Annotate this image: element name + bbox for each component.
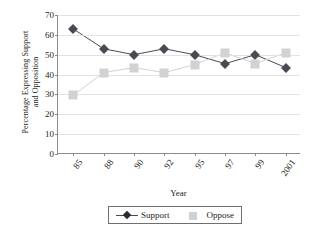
support-marker-icon bbox=[116, 211, 138, 220]
legend-label-oppose: Oppose bbox=[207, 211, 235, 220]
y-tickmark bbox=[55, 134, 58, 135]
y-tickmark bbox=[55, 114, 58, 115]
x-tickmark bbox=[255, 153, 256, 156]
data-point-oppose bbox=[251, 59, 260, 68]
gridline bbox=[58, 15, 300, 16]
y-tick-label: 50 bbox=[20, 50, 54, 59]
x-tick-label: 2001 bbox=[279, 158, 297, 178]
y-tickmark bbox=[55, 55, 58, 56]
y-tick-label: 60 bbox=[20, 30, 54, 39]
x-tick-label: 99 bbox=[254, 158, 267, 171]
data-point-oppose bbox=[281, 48, 290, 57]
y-tick-label: 0 bbox=[20, 150, 54, 159]
oppose-marker-icon bbox=[182, 211, 204, 220]
data-point-oppose bbox=[190, 60, 199, 69]
gridline bbox=[58, 75, 300, 76]
x-tickmark bbox=[225, 153, 226, 156]
x-tick-label: 88 bbox=[102, 158, 115, 171]
y-tick-label: 30 bbox=[20, 90, 54, 99]
data-point-oppose bbox=[99, 68, 108, 77]
legend-item-oppose: Oppose bbox=[182, 211, 235, 220]
y-tick-label: 70 bbox=[20, 11, 54, 20]
legend-item-support: Support bbox=[116, 211, 170, 220]
y-tick-label: 20 bbox=[20, 110, 54, 119]
x-tickmark bbox=[195, 153, 196, 156]
x-tickmark bbox=[73, 153, 74, 156]
plot-area: 010203040506070858890929597992001 bbox=[57, 15, 300, 154]
x-tickmark bbox=[286, 153, 287, 156]
gridline bbox=[58, 94, 300, 95]
gridline bbox=[58, 114, 300, 115]
gridline bbox=[58, 55, 300, 56]
y-tickmark bbox=[55, 94, 58, 95]
gridline bbox=[58, 134, 300, 135]
x-tick-label: 95 bbox=[194, 158, 207, 171]
x-axis-title: Year bbox=[57, 188, 300, 198]
data-point-oppose bbox=[69, 91, 78, 100]
chart-container: Percentage Expressing Support and Opposi… bbox=[0, 0, 319, 236]
x-tickmark bbox=[104, 153, 105, 156]
y-tickmark bbox=[55, 15, 58, 16]
data-point-oppose bbox=[221, 48, 230, 57]
chart-legend: Support Oppose bbox=[108, 206, 242, 224]
x-tick-label: 97 bbox=[224, 158, 237, 171]
x-tickmark bbox=[134, 153, 135, 156]
y-tickmark bbox=[55, 35, 58, 36]
x-tick-label: 90 bbox=[133, 158, 146, 171]
y-tick-label: 40 bbox=[20, 70, 54, 79]
data-point-oppose bbox=[129, 63, 138, 72]
y-tickmark bbox=[55, 75, 58, 76]
y-tickmark bbox=[55, 154, 58, 155]
x-tick-label: 92 bbox=[163, 158, 176, 171]
x-tickmark bbox=[164, 153, 165, 156]
gridline bbox=[58, 35, 300, 36]
legend-label-support: Support bbox=[141, 211, 170, 220]
x-tick-label: 85 bbox=[72, 158, 85, 171]
y-tick-label: 10 bbox=[20, 130, 54, 139]
data-point-oppose bbox=[160, 68, 169, 77]
series-lines bbox=[58, 15, 301, 154]
